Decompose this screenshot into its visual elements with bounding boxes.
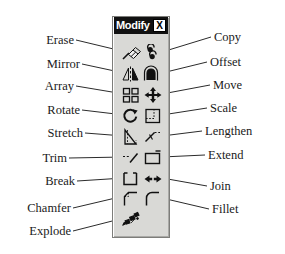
tool-button-scale[interactable] xyxy=(141,105,165,126)
tool-button-chamfer[interactable] xyxy=(119,188,143,209)
label-join: Join xyxy=(210,180,231,193)
chamfer-icon xyxy=(121,190,141,208)
label-break: Break xyxy=(45,175,75,188)
label-trim: Trim xyxy=(42,152,67,165)
close-icon[interactable]: X xyxy=(153,19,166,32)
stretch-icon xyxy=(121,128,141,146)
tool-button-lengthen[interactable] xyxy=(141,126,165,147)
label-erase: Erase xyxy=(46,34,74,47)
toolbar-titlebar[interactable]: Modify X xyxy=(114,17,168,34)
label-copy: Copy xyxy=(214,31,241,44)
fillet-icon xyxy=(143,190,163,208)
label-rotate: Rotate xyxy=(47,104,80,117)
tool-button-stretch[interactable] xyxy=(119,126,143,147)
tool-button-break[interactable] xyxy=(119,168,143,189)
eraser-icon xyxy=(120,44,142,62)
join-icon xyxy=(143,170,163,188)
rotate-icon xyxy=(121,107,141,125)
tool-button-join[interactable] xyxy=(141,168,165,189)
tool-button-extend[interactable] xyxy=(141,147,165,168)
tool-button-erase[interactable] xyxy=(119,42,143,63)
label-lengthen: Lengthen xyxy=(205,125,252,138)
array-icon xyxy=(121,86,141,104)
lengthen-icon xyxy=(143,128,163,146)
diagram-stage: Modify X xyxy=(0,0,285,254)
label-fillet: Fillet xyxy=(212,203,238,216)
scale-icon xyxy=(143,107,163,125)
tool-button-array[interactable] xyxy=(119,84,143,105)
label-extend: Extend xyxy=(208,149,243,162)
tool-button-copy[interactable] xyxy=(141,42,165,63)
explode-icon xyxy=(120,211,142,229)
break-icon xyxy=(121,170,141,188)
move-icon xyxy=(143,86,163,104)
tool-button-explode[interactable] xyxy=(119,209,143,230)
label-chamfer: Chamfer xyxy=(27,202,71,215)
label-array: Array xyxy=(45,80,74,93)
label-mirror: Mirror xyxy=(47,58,80,71)
tool-button-trim[interactable] xyxy=(119,147,143,168)
label-scale: Scale xyxy=(210,102,237,115)
offset-icon xyxy=(143,65,163,83)
tool-button-offset[interactable] xyxy=(141,63,165,84)
label-explode: Explode xyxy=(29,225,71,238)
tool-button-fillet[interactable] xyxy=(141,188,165,209)
tool-button-move[interactable] xyxy=(141,84,165,105)
label-stretch: Stretch xyxy=(48,127,83,140)
extend-icon xyxy=(143,149,163,167)
toolbar-title: Modify xyxy=(116,17,150,34)
label-move: Move xyxy=(213,79,242,92)
label-offset: Offset xyxy=(210,56,241,69)
tool-button-mirror[interactable] xyxy=(119,63,143,84)
trim-icon xyxy=(121,149,141,167)
mirror-icon xyxy=(120,65,142,83)
copy-icon xyxy=(143,44,163,62)
tool-button-rotate[interactable] xyxy=(119,105,143,126)
